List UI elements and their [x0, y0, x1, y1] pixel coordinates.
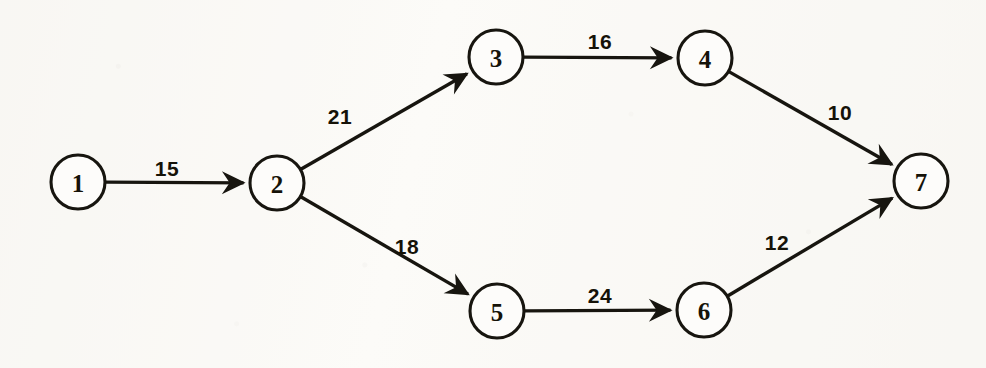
edge-2-to-5 — [301, 197, 468, 294]
node-label-7: 7 — [915, 169, 928, 196]
node-4[interactable]: 4 — [678, 31, 732, 85]
edge-weight-1-2: 15 — [155, 157, 179, 180]
node-label-5: 5 — [491, 299, 504, 326]
edge-3-to-4 — [524, 57, 672, 58]
node-6[interactable]: 6 — [677, 283, 731, 337]
node-7[interactable]: 7 — [894, 154, 948, 208]
node-5[interactable]: 5 — [470, 284, 524, 338]
edge-weight-3-4: 16 — [588, 30, 612, 53]
edge-1-to-2 — [106, 182, 244, 183]
edges-layer — [106, 57, 893, 311]
node-label-1: 1 — [72, 170, 85, 197]
edge-weight-4-7: 10 — [828, 101, 852, 124]
edge-4-to-7 — [729, 72, 892, 165]
edge-weight-5-6: 24 — [588, 284, 612, 307]
edge-2-to-3 — [301, 74, 467, 170]
node-2[interactable]: 2 — [250, 156, 304, 210]
diagram-page: 1234567 15211610182412 — [0, 0, 986, 368]
edge-weight-2-5: 18 — [395, 235, 419, 258]
node-3[interactable]: 3 — [469, 30, 523, 84]
node-label-6: 6 — [698, 298, 711, 325]
edge-5-to-6 — [525, 310, 671, 311]
node-1[interactable]: 1 — [51, 155, 105, 209]
node-label-2: 2 — [271, 171, 284, 198]
edge-weight-2-3: 21 — [328, 105, 352, 128]
network-diagram-canvas: 1234567 15211610182412 — [0, 0, 986, 368]
node-label-3: 3 — [490, 45, 503, 72]
edge-weight-6-7: 12 — [765, 231, 789, 254]
node-label-4: 4 — [699, 46, 712, 73]
edge-6-to-7 — [728, 198, 893, 296]
